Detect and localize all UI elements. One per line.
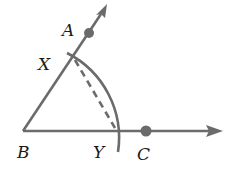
label-c: C	[137, 144, 150, 164]
label-a: A	[60, 20, 74, 40]
label-b: B	[16, 142, 30, 162]
angle-construction-diagram: A X B Y C	[0, 0, 236, 174]
arrowhead-ba-icon	[96, 4, 107, 18]
point-a-dot	[84, 28, 94, 38]
label-y: Y	[93, 142, 106, 162]
construction-arc	[67, 53, 119, 152]
point-c-dot	[141, 126, 152, 137]
label-x: X	[36, 54, 51, 74]
